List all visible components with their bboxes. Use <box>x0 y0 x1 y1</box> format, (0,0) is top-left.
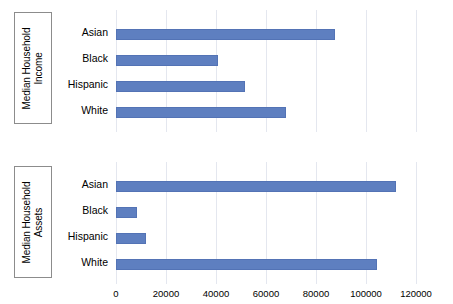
x-axis-tick-labels: 0 20000 40000 60000 80000 100000 120000 <box>116 288 417 304</box>
bar-row: White <box>116 252 417 277</box>
chart-panel-income: Median Household Income Asian Black Hisp… <box>0 0 453 152</box>
bar-assets-black <box>116 207 137 218</box>
y-axis-title-income: Median Household Income <box>22 27 45 109</box>
x-tick-label: 20000 <box>153 288 179 299</box>
bar-row: Asian <box>116 22 417 47</box>
category-label: Black <box>82 204 108 216</box>
x-tick-label: 80000 <box>303 288 329 299</box>
category-label: White <box>81 256 108 268</box>
plot-area-income: Asian Black Hispanic White <box>116 10 417 132</box>
y-axis-title-box-income: Median Household Income <box>14 12 52 124</box>
plot-area-assets: Asian Black Hispanic White <box>116 162 417 284</box>
x-tick-label: 120000 <box>400 288 432 299</box>
category-label: Asian <box>82 26 108 38</box>
figure-horizontal-bar-charts: Median Household Income Asian Black Hisp… <box>0 0 453 304</box>
bar-income-black <box>116 55 218 66</box>
bar-row: Hispanic <box>116 226 417 251</box>
y-axis-title-box-assets: Median Household Assets <box>14 166 52 278</box>
category-label: Black <box>82 52 108 64</box>
bar-row: Asian <box>116 174 417 199</box>
category-label: White <box>81 104 108 116</box>
x-tick-label: 100000 <box>350 288 382 299</box>
bar-row: Black <box>116 200 417 225</box>
bar-row: Hispanic <box>116 74 417 99</box>
category-label: Asian <box>82 178 108 190</box>
x-tick-label: 40000 <box>203 288 229 299</box>
bar-assets-asian <box>116 181 396 192</box>
x-tick-label: 60000 <box>253 288 279 299</box>
bar-income-asian <box>116 29 335 40</box>
chart-panel-assets: Median Household Assets Asian Black Hisp… <box>0 152 453 304</box>
bar-assets-white <box>116 259 377 270</box>
category-label: Hispanic <box>68 78 108 90</box>
category-label: Hispanic <box>68 230 108 242</box>
bar-row: White <box>116 100 417 125</box>
bar-income-white <box>116 107 286 118</box>
x-tick-label: 0 <box>113 288 118 299</box>
bar-assets-hispanic <box>116 233 146 244</box>
bar-row: Black <box>116 48 417 73</box>
bar-income-hispanic <box>116 81 245 92</box>
y-axis-title-assets: Median Household Assets <box>22 181 45 263</box>
